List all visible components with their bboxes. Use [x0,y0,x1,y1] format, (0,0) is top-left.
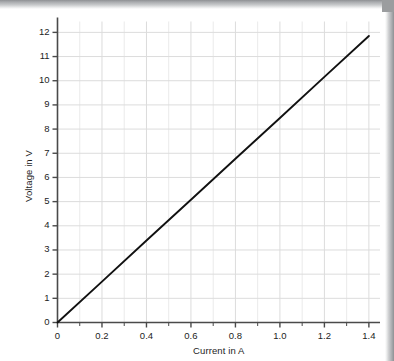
y-tick-label: 4 [22,219,50,230]
gridlines-minor-x [58,22,369,323]
x-axis-title: Current in A [18,345,394,356]
y-tick-label: 9 [22,98,50,109]
x-tick-label: 0.8 [215,330,255,341]
y-tick-label: 0 [22,316,50,327]
x-tick-label: 1.4 [349,330,389,341]
x-tick-label: 0.6 [171,330,211,341]
y-axis-title: Voltage in V [23,150,34,202]
x-tick-label: 1.0 [260,330,300,341]
voltage-current-plot [0,0,394,361]
y-tick-label: 8 [22,123,50,134]
x-tick-label: 0.2 [82,330,122,341]
x-tick-label: 0.4 [126,330,166,341]
y-tick-label: 2 [22,268,50,279]
y-tick-label: 10 [22,74,50,85]
y-tick-label: 11 [22,50,50,61]
y-tick-label: 12 [22,26,50,37]
x-tick-label: 0 [38,330,78,341]
y-tick-label: 1 [22,292,50,303]
chart-figure: 0123456789101112 00.20.40.60.81.01.21.4 … [0,0,394,361]
x-tick-label: 1.2 [304,330,344,341]
y-tick-label: 3 [22,243,50,254]
